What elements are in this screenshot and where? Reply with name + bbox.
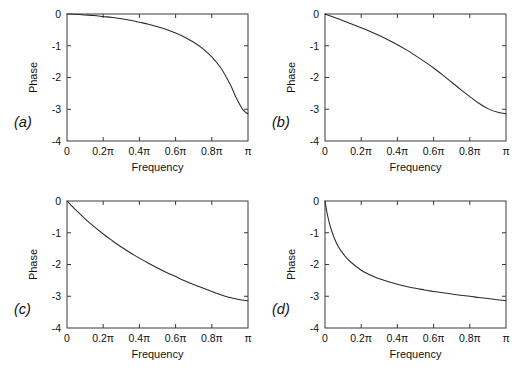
y-tick-label: -2 <box>52 258 61 270</box>
y-axis-label: Phase <box>27 62 39 93</box>
x-tick-label: 0 <box>322 332 328 344</box>
y-tick-label: -3 <box>52 103 61 115</box>
x-axis-label: Frequency <box>132 348 184 360</box>
y-tick-label: 0 <box>313 195 319 207</box>
y-axis-label: Phase <box>285 249 297 280</box>
y-tick-label: -4 <box>310 322 319 334</box>
x-tick-label: π <box>244 145 251 157</box>
x-tick-label: π <box>502 145 509 157</box>
panel-letter-c: (c) <box>14 301 31 317</box>
y-tick-label: -1 <box>52 40 61 52</box>
x-tick-label: 0.8π <box>459 332 481 344</box>
x-tick-label: 0.2π <box>92 145 114 157</box>
y-tick-label: -3 <box>52 290 61 302</box>
x-tick-label: 0.6π <box>165 332 187 344</box>
y-tick-label: -1 <box>52 227 61 239</box>
panel-b: 00.2π0.4π0.6π0.8ππ0-1-2-3-4FrequencyPhas… <box>258 0 516 186</box>
x-tick-label: 0.4π <box>128 145 150 157</box>
plot-frame <box>325 14 506 141</box>
y-axis-label: Phase <box>285 62 297 93</box>
y-tick-label: 0 <box>55 8 61 20</box>
x-tick-label: π <box>502 332 509 344</box>
panel-c: 00.2π0.4π0.6π0.8ππ0-1-2-3-4FrequencyPhas… <box>0 187 258 373</box>
y-tick-label: -3 <box>310 290 319 302</box>
plot-b: 00.2π0.4π0.6π0.8ππ0-1-2-3-4FrequencyPhas… <box>258 0 516 186</box>
y-tick-label: -1 <box>310 40 319 52</box>
x-tick-label: 0.8π <box>201 145 223 157</box>
y-tick-label: -2 <box>310 258 319 270</box>
phase-response-figure: 00.2π0.4π0.6π0.8ππ0-1-2-3-4FrequencyPhas… <box>0 0 516 373</box>
x-tick-label: 0.6π <box>423 332 445 344</box>
y-tick-label: 0 <box>313 8 319 20</box>
plot-c: 00.2π0.4π0.6π0.8ππ0-1-2-3-4FrequencyPhas… <box>0 187 258 373</box>
panel-letter-a: (a) <box>14 114 32 130</box>
x-tick-label: 0.2π <box>350 332 372 344</box>
plot-frame <box>325 201 506 328</box>
y-tick-label: -4 <box>52 135 61 147</box>
phase-curve <box>325 14 506 114</box>
panel-d: 00.2π0.4π0.6π0.8ππ0-1-2-3-4FrequencyPhas… <box>258 187 516 373</box>
plot-d: 00.2π0.4π0.6π0.8ππ0-1-2-3-4FrequencyPhas… <box>258 187 516 373</box>
x-axis-label: Frequency <box>390 161 442 173</box>
y-tick-label: -3 <box>310 103 319 115</box>
x-tick-label: 0 <box>322 145 328 157</box>
x-tick-label: 0.4π <box>128 332 150 344</box>
x-tick-label: 0.4π <box>386 332 408 344</box>
phase-curve <box>67 201 248 301</box>
y-tick-label: -1 <box>310 227 319 239</box>
x-axis-label: Frequency <box>390 348 442 360</box>
x-tick-label: 0.8π <box>201 332 223 344</box>
plot-frame <box>67 14 248 141</box>
x-tick-label: 0 <box>64 332 70 344</box>
x-axis-label: Frequency <box>132 161 184 173</box>
plot-a: 00.2π0.4π0.6π0.8ππ0-1-2-3-4FrequencyPhas… <box>0 0 258 186</box>
y-tick-label: -2 <box>52 71 61 83</box>
x-tick-label: 0 <box>64 145 70 157</box>
y-tick-label: -2 <box>310 71 319 83</box>
panel-letter-d: (d) <box>272 301 290 317</box>
phase-curve <box>67 14 248 114</box>
x-tick-label: 0.4π <box>386 145 408 157</box>
x-tick-label: 0.2π <box>92 332 114 344</box>
x-tick-label: 0.6π <box>165 145 187 157</box>
y-tick-label: -4 <box>52 322 61 334</box>
x-tick-label: 0.8π <box>459 145 481 157</box>
x-tick-label: 0.6π <box>423 145 445 157</box>
y-tick-label: -4 <box>310 135 319 147</box>
panel-letter-b: (b) <box>272 114 290 130</box>
x-tick-label: 0.2π <box>350 145 372 157</box>
x-tick-label: π <box>244 332 251 344</box>
panel-a: 00.2π0.4π0.6π0.8ππ0-1-2-3-4FrequencyPhas… <box>0 0 258 186</box>
y-tick-label: 0 <box>55 195 61 207</box>
phase-curve <box>325 201 506 301</box>
y-axis-label: Phase <box>27 249 39 280</box>
plot-frame <box>67 201 248 328</box>
